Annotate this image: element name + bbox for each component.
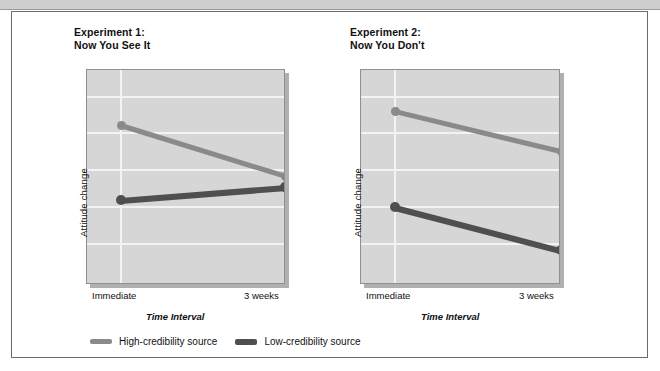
legend-item-low-credibility: Low-credibility source: [235, 336, 360, 347]
legend-label-low-credibility: Low-credibility source: [264, 336, 360, 347]
data-point-high-credibility-immediate: [117, 121, 126, 130]
figure-frame: Experiment 1: Now You See It Attitude ch…: [11, 11, 648, 358]
x-tick-3weeks-experiment-1: 3 weeks: [244, 290, 279, 301]
gridline-horizontal: [87, 243, 284, 245]
data-point-low-credibility-3weeks: [280, 182, 285, 192]
x-axis-title-experiment-1: Time Interval: [146, 311, 204, 322]
gridline-vertical: [120, 70, 122, 283]
data-point-low-credibility-3weeks: [556, 245, 560, 255]
x-tick-immediate-experiment-2: Immediate: [366, 290, 410, 301]
y-axis-label-experiment-2: Attitude change: [352, 168, 363, 237]
gridline-vertical: [394, 70, 396, 283]
line-swatch-icon: [235, 339, 257, 345]
series-line-low-credibility: [121, 185, 285, 204]
legend-item-high-credibility: High-credibility source: [90, 336, 217, 347]
data-point-high-credibility-3weeks: [281, 172, 285, 181]
line-swatch-icon: [90, 339, 112, 344]
gridline-vertical: [559, 70, 560, 283]
gridline-horizontal: [87, 96, 284, 98]
x-axis-title-experiment-2: Time Interval: [421, 311, 479, 322]
x-tick-immediate-experiment-1: Immediate: [92, 290, 136, 301]
chart-legend: High-credibility source Low-credibility …: [90, 336, 361, 347]
gridline-horizontal: [87, 206, 284, 208]
plot-area-experiment-2: [360, 69, 560, 284]
gridline-horizontal: [361, 169, 559, 171]
x-tick-3weeks-experiment-2: 3 weeks: [519, 290, 554, 301]
gridline-horizontal: [87, 132, 284, 134]
legend-label-high-credibility: High-credibility source: [119, 336, 217, 347]
gridline-vertical: [284, 70, 285, 283]
data-point-high-credibility-immediate: [391, 107, 400, 116]
data-point-low-credibility-immediate: [116, 195, 126, 205]
plot-area-experiment-1: [86, 69, 285, 284]
y-axis-label-experiment-1: Attitude change: [78, 168, 89, 237]
data-point-high-credibility-3weeks: [557, 147, 560, 156]
gridline-horizontal: [361, 96, 559, 98]
gridline-horizontal: [361, 132, 559, 134]
series-line-low-credibility: [394, 205, 560, 254]
chart-title-experiment-1: Experiment 1: Now You See It: [74, 26, 150, 51]
scan-top-band: [0, 0, 660, 10]
chart-title-experiment-2: Experiment 2: Now You Don't: [350, 26, 425, 51]
data-point-low-credibility-immediate: [390, 202, 400, 212]
